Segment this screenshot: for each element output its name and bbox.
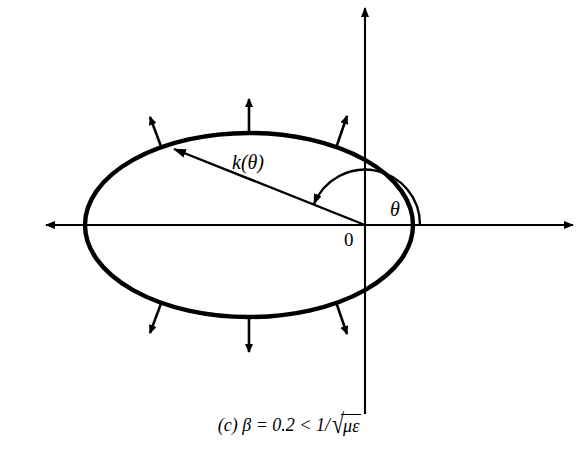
normal-arrow-lower-left: [150, 301, 162, 333]
caption-equals: =: [256, 415, 268, 436]
caption-square-root: √με: [330, 412, 361, 438]
caption-value: 0.2: [272, 415, 295, 436]
caption-symbol: β: [242, 415, 251, 436]
caption-index: (c): [218, 415, 238, 436]
caption-bound-numerator: 1/: [316, 415, 330, 436]
radical-sign: √: [332, 408, 344, 441]
wave-vector-diagram: [0, 0, 579, 453]
k-vector-arrow: [174, 149, 365, 225]
caption-relation: <: [299, 415, 311, 436]
normal-arrow-upper-right: [336, 116, 347, 148]
normal-arrow-upper-left: [150, 117, 162, 149]
figure-root: k(θ) θ 0 (c) β = 0.2 < 1/√με: [0, 0, 579, 453]
figure-caption: (c) β = 0.2 < 1/√με: [0, 412, 579, 438]
normal-arrow-lower-right: [336, 302, 347, 334]
caption-bound-radicand: με: [341, 414, 361, 437]
